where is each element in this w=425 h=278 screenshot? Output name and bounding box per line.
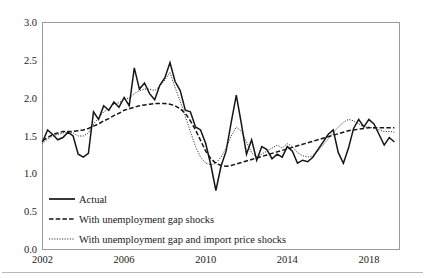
y-tick-label: 2.5 xyxy=(24,55,37,66)
y-tick-label: 1.0 xyxy=(24,168,37,179)
y-tick-label: 0.5 xyxy=(24,206,37,217)
y-tick-label: 1.5 xyxy=(24,131,37,142)
x-tick-label: 2014 xyxy=(277,254,299,265)
legend-label: With unemployment gap shocks xyxy=(79,214,214,225)
x-tick-label: 2006 xyxy=(114,254,135,265)
x-tick-label: 2018 xyxy=(358,254,379,265)
legend-label: Actual xyxy=(79,194,107,205)
x-tick-label: 2010 xyxy=(195,254,216,265)
y-tick-label: 2.0 xyxy=(24,93,37,104)
legend-label: With unemployment gap and import price s… xyxy=(79,234,286,245)
x-tick-label: 2002 xyxy=(32,254,53,265)
line-chart: 0.00.51.01.52.02.53.0 200220062010201420… xyxy=(0,0,425,278)
y-tick-label: 3.0 xyxy=(24,17,37,28)
figure-container: 0.00.51.01.52.02.53.0 200220062010201420… xyxy=(0,0,425,278)
legend-item-unemployment-gap-and-import-price-shocks: With unemployment gap and import price s… xyxy=(49,234,286,245)
